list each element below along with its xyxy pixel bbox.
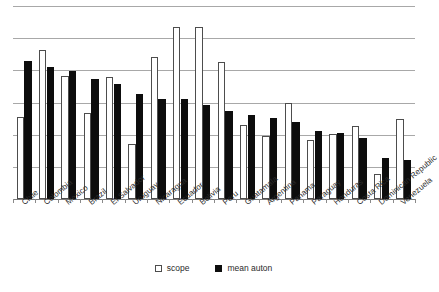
bar-mean-auton[interactable]: [24, 61, 31, 199]
bar-group: [348, 6, 370, 199]
bar-mean-auton[interactable]: [225, 111, 232, 199]
bar-scope[interactable]: [151, 57, 158, 199]
legend-label-mean-auton: mean auton: [227, 263, 272, 273]
bar-group: [303, 6, 325, 199]
bar-group: [80, 6, 102, 199]
bar-scope[interactable]: [39, 50, 46, 199]
bar-mean-auton[interactable]: [158, 99, 165, 199]
bar-group: [125, 6, 147, 199]
bar-scope[interactable]: [195, 27, 202, 199]
bar-mean-auton[interactable]: [248, 115, 255, 199]
filled-square-marker-icon: [215, 265, 222, 272]
x-axis-labels: ChileColombiaMexicoBrazilEl SalvadorUrug…: [0, 200, 427, 262]
legend-item-scope[interactable]: scope: [155, 263, 190, 273]
open-square-marker-icon: [155, 265, 162, 272]
bar-group: [35, 6, 57, 199]
plot-area: [13, 6, 415, 200]
bar-group: [169, 6, 191, 199]
bar-group: [281, 6, 303, 199]
bar-scope[interactable]: [106, 77, 113, 199]
bar-group: [147, 6, 169, 199]
bar-group: [102, 6, 124, 199]
bar-mean-auton[interactable]: [91, 79, 98, 199]
bar-group: [236, 6, 258, 199]
bar-scope[interactable]: [240, 125, 247, 199]
chart-legend: scope mean auton: [0, 263, 427, 273]
bar-scope[interactable]: [218, 62, 225, 199]
bar-mean-auton[interactable]: [114, 84, 121, 199]
bar-group: [326, 6, 348, 199]
bar-mean-auton[interactable]: [315, 131, 322, 199]
legend-label-scope: scope: [167, 263, 190, 273]
bar-group: [370, 6, 392, 199]
bars-layer: [13, 6, 415, 199]
bar-group: [13, 6, 35, 199]
bar-group: [192, 6, 214, 199]
bar-group: [259, 6, 281, 199]
bar-scope[interactable]: [173, 27, 180, 199]
bar-group: [214, 6, 236, 199]
bar-group: [58, 6, 80, 199]
legend-item-mean-auton[interactable]: mean auton: [215, 263, 272, 273]
bar-mean-auton[interactable]: [47, 67, 54, 199]
bar-scope[interactable]: [17, 117, 24, 199]
